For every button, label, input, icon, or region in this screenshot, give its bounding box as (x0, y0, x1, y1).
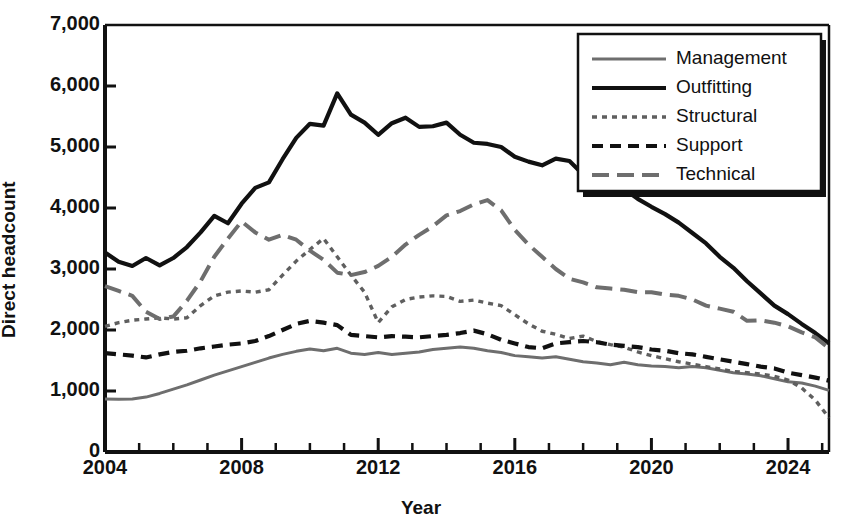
x-tick-label: 2012 (356, 456, 401, 479)
y-tick-label: 3,000 (4, 256, 100, 279)
x-tick-label: 2008 (219, 456, 264, 479)
x-tick-label: 2020 (629, 456, 674, 479)
x-tick-label: 2004 (83, 456, 128, 479)
y-tick-label: 7,000 (4, 12, 100, 35)
y-tick-label: 6,000 (4, 73, 100, 96)
x-axis-label: Year (0, 497, 842, 519)
series-line-structural (105, 239, 829, 418)
legend-item-management: Management (676, 47, 787, 69)
y-tick-label: 5,000 (4, 134, 100, 157)
series-line-technical (105, 200, 829, 348)
y-tick-label: 4,000 (4, 195, 100, 218)
legend-item-technical: Technical (676, 163, 755, 185)
series-line-management (105, 347, 829, 399)
legend-item-outfitting: Outfitting (676, 76, 752, 98)
y-axis-tick-labels: 01,0002,0003,0004,0005,0006,0007,000 (0, 0, 100, 523)
y-tick-label: 1,000 (4, 378, 100, 401)
chart-figure: Direct headcount Year 01,0002,0003,0004,… (0, 0, 842, 523)
x-tick-label: 2024 (766, 456, 811, 479)
y-tick-label: 2,000 (4, 317, 100, 340)
legend-item-structural: Structural (676, 105, 757, 127)
legend-item-support: Support (676, 134, 743, 156)
x-tick-label: 2016 (493, 456, 538, 479)
